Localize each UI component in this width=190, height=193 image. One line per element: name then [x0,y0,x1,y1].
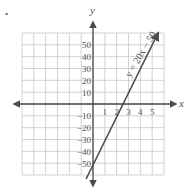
bullet-marker: • [5,9,8,19]
y-axis-label: y [89,4,95,16]
x-tick-label: 5 [150,107,155,117]
x-tick-label: 4 [138,107,143,117]
y-tick-label: 20 [82,76,92,86]
y-tick-label: 40 [82,52,92,62]
line-chart: • 123455040302010−10−20−30−40−50 x y y =… [0,0,190,193]
y-tick-label: −40 [77,147,92,157]
y-tick-label: 30 [82,64,92,74]
x-tick-label: 1 [103,107,108,117]
y-tick-label: −50 [77,159,92,169]
data-series [86,33,158,179]
y-tick-label: −20 [77,123,92,133]
y-tick-label: −30 [77,135,92,145]
x-axis-label: x [178,97,184,109]
y-tick-label: 10 [82,88,92,98]
y-tick-label: −10 [77,111,92,121]
y-tick-label: 50 [82,40,92,50]
x-tick-label: 3 [126,107,131,117]
equation-line [86,33,158,179]
